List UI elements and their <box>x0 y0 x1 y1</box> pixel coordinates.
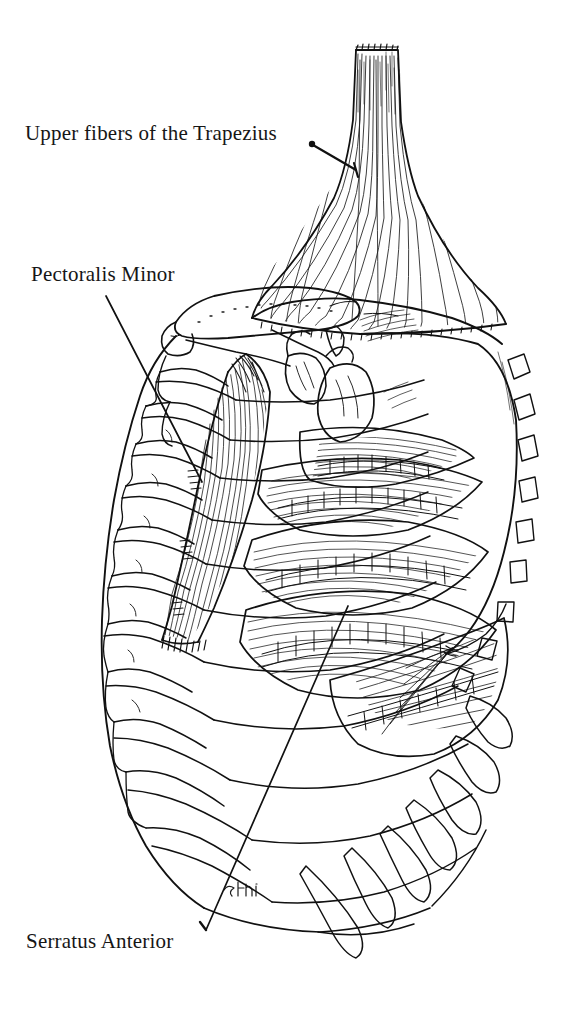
leader-line-serratus-anterior <box>206 606 348 930</box>
trapezius-muscle <box>251 44 506 340</box>
scapula <box>252 298 538 692</box>
artist-signature <box>224 882 257 896</box>
serratus-anterior-muscle <box>240 428 508 757</box>
leader-lines <box>106 141 358 930</box>
scapula-border-tabs <box>452 354 538 692</box>
label-serratus-anterior: Serratus Anterior <box>26 930 173 953</box>
anatomy-figure <box>0 0 563 1020</box>
leader-line-trapezius <box>313 145 356 170</box>
lower-rib-projections <box>300 696 512 958</box>
illustration-page: Upper fibers of the Trapezius Pectoralis… <box>0 0 563 1020</box>
label-upper-fibers-trapezius: Upper fibers of the Trapezius <box>25 122 277 145</box>
ribs <box>102 336 476 932</box>
label-pectoralis-minor: Pectoralis Minor <box>31 263 175 286</box>
